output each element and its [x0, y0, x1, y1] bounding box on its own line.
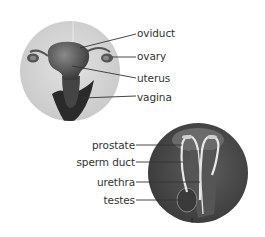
- label-prostate: prostate: [55, 139, 135, 151]
- label-sperm-duct: sperm duct: [55, 156, 135, 168]
- label-oviduct: oviduct: [137, 27, 175, 39]
- label-testes: testes: [55, 194, 135, 206]
- label-uterus: uterus: [137, 72, 170, 84]
- label-ovary: ovary: [137, 50, 166, 62]
- label-urethra: urethra: [55, 176, 135, 188]
- male-reproductive-illustration: [148, 123, 248, 226]
- label-vagina: vagina: [137, 91, 172, 103]
- reproductive-systems-diagram: oviduct ovary uterus vagina prostate spe…: [0, 0, 265, 237]
